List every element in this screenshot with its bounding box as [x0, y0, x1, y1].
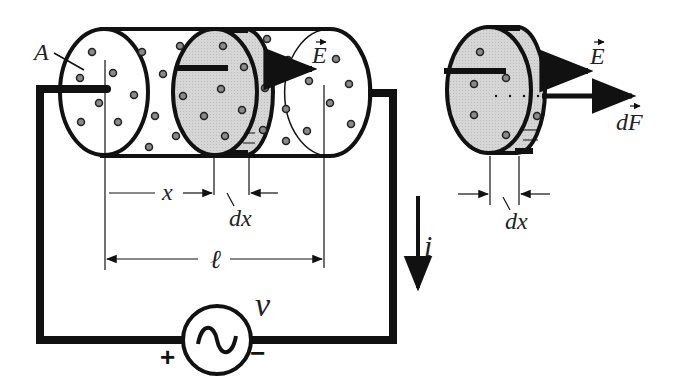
- diagram-canvas: A E x dx ℓ i v + −: [0, 0, 675, 387]
- e-field-label: E: [311, 42, 327, 68]
- slice-e-field-label: E: [589, 43, 605, 69]
- position-label: x: [161, 179, 173, 205]
- current-label: i: [424, 229, 432, 262]
- slice-dimension-lines: [458, 156, 550, 210]
- isolated-slab: [444, 25, 545, 154]
- ac-voltage-source: [183, 306, 251, 374]
- force-label: dF: [616, 109, 643, 135]
- area-label: A: [32, 39, 49, 65]
- plus-terminal: +: [160, 342, 175, 372]
- voltage-label: v: [255, 286, 271, 323]
- minus-terminal: −: [250, 338, 265, 368]
- slice-thickness-label: dx: [505, 208, 528, 234]
- thickness-label: dx: [229, 205, 252, 231]
- length-label: ℓ: [210, 245, 221, 274]
- slab-front-face: [173, 29, 257, 155]
